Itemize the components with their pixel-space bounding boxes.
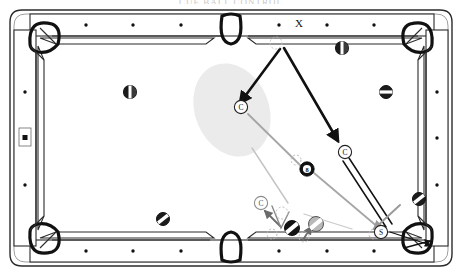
ball-bottom-left	[156, 213, 169, 226]
ball-top-right	[336, 42, 349, 55]
marker-eight-ball-label: 8	[305, 166, 308, 173]
marker-stun-point-label: S	[379, 228, 383, 237]
ball-right-lower	[412, 193, 425, 206]
marker-cue-ball-start-label: C	[258, 199, 263, 208]
rail-label-x: X	[295, 17, 303, 29]
marker-cue-ball-start: C	[254, 196, 267, 209]
ball-cluster-gray	[309, 217, 324, 232]
marker-stun-point: S	[374, 225, 387, 238]
pool-table-figure: CUE BALL CONTROL	[0, 0, 462, 277]
marker-cue-ball-contact: C	[338, 145, 351, 158]
ball-right-upper	[380, 86, 393, 99]
ball-left-upper	[124, 86, 137, 99]
marker-cue-ball-contact-label: C	[342, 148, 347, 157]
ball-cluster-dark	[285, 221, 300, 236]
clipped-caption: CUE BALL CONTROL	[0, 0, 462, 4]
pool-table-svg: C C C S 8 X	[0, 0, 462, 277]
marker-eight-ball: 8	[300, 162, 314, 176]
marker-cue-ball-landing: C	[234, 100, 247, 113]
marker-cue-ball-landing-label: C	[238, 103, 243, 112]
left-rail-boxed-sight	[19, 128, 31, 146]
